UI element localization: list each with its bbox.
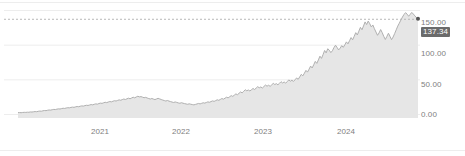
last-point-marker xyxy=(416,17,420,21)
chart-plot-area[interactable] xyxy=(0,0,465,156)
price-chart-widget: 150.00 100.00 50.00 0.00 2021 2022 2023 … xyxy=(0,0,465,156)
x-axis-label-2023: 2023 xyxy=(254,127,272,136)
x-axis-label-2022: 2022 xyxy=(172,127,190,136)
y-axis-label-100: 100.00 xyxy=(421,49,446,58)
x-axis-label-2021: 2021 xyxy=(91,127,109,136)
chart-canvas xyxy=(0,0,465,156)
y-axis-label-50: 50.00 xyxy=(421,80,442,89)
y-axis-label-150: 150.00 xyxy=(421,18,446,27)
series-area-fill xyxy=(18,12,418,118)
current-price-badge: 137.34 xyxy=(421,27,450,37)
y-axis-label-0: 0.00 xyxy=(421,110,437,119)
x-axis-label-2024: 2024 xyxy=(337,127,355,136)
